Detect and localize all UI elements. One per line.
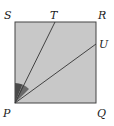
label-q: Q [97, 107, 106, 120]
label-r: R [97, 9, 106, 22]
label-u: U [99, 38, 109, 51]
label-s: S [4, 9, 12, 22]
geometry-diagram: S T R U P Q [0, 0, 114, 126]
label-p: P [2, 107, 11, 120]
label-t: T [50, 9, 59, 22]
